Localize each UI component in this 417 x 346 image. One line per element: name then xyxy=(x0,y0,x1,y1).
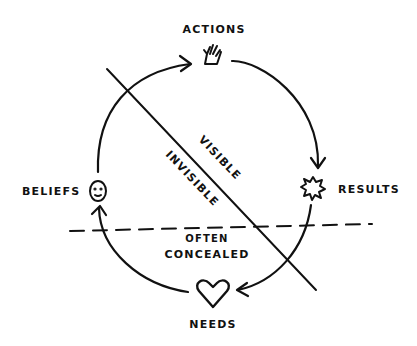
label-visible: VISIBLE xyxy=(196,133,244,183)
label-results: RESULTS xyxy=(338,183,400,196)
label-actions: ACTIONS xyxy=(182,23,245,36)
label-often: OFTEN xyxy=(185,233,228,244)
arrowhead-actions xyxy=(180,56,191,71)
cycle-diagram: ACTIONS RESULTS NEEDS BELIEFS VISIBLE IN… xyxy=(0,0,417,346)
heart-icon xyxy=(197,281,229,307)
arrow-actions-to-results xyxy=(232,61,318,166)
concealed-divider xyxy=(70,224,372,231)
starburst-icon xyxy=(301,177,325,200)
smiley-face-icon xyxy=(90,181,106,201)
label-needs: NEEDS xyxy=(189,318,236,331)
label-concealed: CONCEALED xyxy=(164,248,249,261)
hand-icon xyxy=(204,45,221,64)
label-beliefs: BELIEFS xyxy=(22,185,80,198)
